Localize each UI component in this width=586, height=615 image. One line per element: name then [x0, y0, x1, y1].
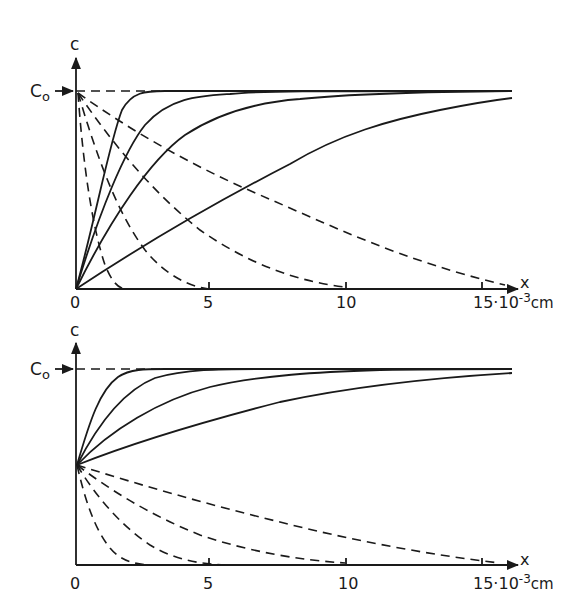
top-tick-label-0: 0	[70, 293, 80, 312]
bottom-c0-label: Co	[30, 359, 50, 382]
figure: c Co x 0 5 10 15·10-3cm c Co x 0 5 10 15…	[0, 0, 586, 615]
bottom-tick-label-5: 5	[203, 574, 213, 593]
top-tick-label-10: 10	[336, 293, 356, 312]
bottom-y-axis-label: c	[70, 320, 79, 340]
top-y-axis-label: c	[70, 34, 79, 54]
bottom-solid-curve-4	[77, 373, 512, 465]
top-tick-label-5: 5	[203, 293, 213, 312]
top-dashed-curve-2	[78, 93, 209, 289]
bottom-tick-label-10: 10	[338, 574, 358, 593]
bottom-tick-label-15: 15·10-3cm	[473, 572, 554, 593]
bottom-solid-curve-2	[77, 369, 512, 465]
top-dashed-curve-4	[78, 93, 505, 285]
top-c0-label: Co	[30, 81, 50, 104]
bottom-dashed-curve-1	[77, 465, 150, 565]
bottom-tick-label-0: 0	[70, 574, 80, 593]
bottom-x-axis-label: x	[520, 550, 529, 569]
top-x-axis-label: x	[520, 273, 529, 292]
bottom-dashed-curve-4	[77, 465, 500, 563]
top-solid-curve-2	[76, 91, 512, 289]
bottom-dashed-curve-3	[77, 465, 345, 563]
top-panel: c Co x 0 5 10 15·10-3cm	[30, 34, 554, 312]
top-tick-label-15: 15·10-3cm	[473, 291, 554, 312]
bottom-panel: c Co x 0 5 10 15·10-3cm	[30, 320, 554, 593]
top-solid-curve-3	[76, 91, 512, 289]
bottom-dashed-curve-2	[77, 465, 225, 565]
top-solid-curve-4	[76, 98, 512, 289]
top-solid-curve-1	[76, 91, 512, 289]
